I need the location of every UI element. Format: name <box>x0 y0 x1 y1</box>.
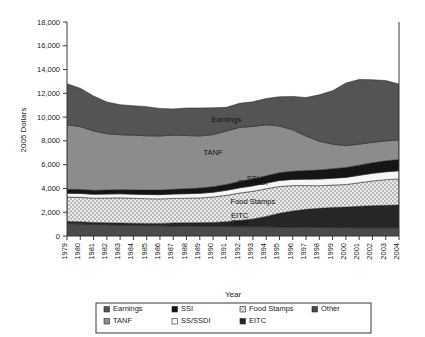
legend-label-earnings: Earnings <box>113 304 143 313</box>
x-tick-label: 1980 <box>73 243 82 260</box>
y-tick-label: 8,000 <box>41 136 60 145</box>
x-tick-label: 1997 <box>299 243 308 260</box>
x-tick-label: 1990 <box>206 243 215 260</box>
x-tick-label: 1995 <box>272 243 281 260</box>
legend-label-food-stamps: Food Stamps <box>249 304 294 313</box>
y-tick-label: 10,000 <box>37 113 60 122</box>
x-tick-label: 1996 <box>286 243 295 260</box>
x-tick-label: 1989 <box>193 243 202 260</box>
x-tick-label: 2004 <box>392 243 401 260</box>
y-tick-label: 4,000 <box>41 184 60 193</box>
x-tick-label: 1999 <box>326 243 335 260</box>
y-tick-label: 0 <box>56 232 60 241</box>
x-tick-label: 1992 <box>233 243 242 260</box>
x-tick-label: 1984 <box>126 243 135 260</box>
legend-label-ss-ssdi: SS/SSDI <box>181 316 211 325</box>
x-tick-label: 1998 <box>312 243 321 260</box>
x-axis-title: Year <box>225 290 242 299</box>
y-tick-label: 18,000 <box>37 18 60 27</box>
legend: EarningsSSIFood StampsOtherTANFSS/SSDIEI… <box>96 303 371 333</box>
inchart-label-earnings: Earnings <box>212 115 242 124</box>
x-tick-label: 1993 <box>246 243 255 260</box>
legend-swatch-earnings <box>104 307 110 313</box>
x-tick-label: 2001 <box>352 243 361 260</box>
legend-swatch-eitc <box>240 319 246 325</box>
x-tick-label: 1981 <box>87 243 96 260</box>
y-axis-title: 2005 Dollars <box>19 108 28 153</box>
legend-swatch-other <box>312 307 318 313</box>
y-tick-label: 2,000 <box>41 208 60 217</box>
x-tick-label: 2003 <box>379 243 388 260</box>
x-tick-label: 1979 <box>60 243 69 260</box>
y-tick-label: 16,000 <box>37 41 60 50</box>
y-tick-label: 14,000 <box>37 65 60 74</box>
legend-label-tanf: TANF <box>113 316 132 325</box>
x-tick-label: 2000 <box>339 243 348 260</box>
x-tick-label: 1983 <box>113 243 122 260</box>
legend-label-other: Other <box>321 304 340 313</box>
legend-label-ssi: SSI <box>181 304 193 313</box>
inchart-label-other: Other <box>230 218 249 227</box>
x-tick-label: 1986 <box>153 243 162 260</box>
x-tick-label: 1988 <box>180 243 189 260</box>
x-tick-label: 2002 <box>365 243 374 260</box>
x-tick-label: 1985 <box>140 243 149 260</box>
legend-label-eitc: EITC <box>249 316 267 325</box>
inchart-label-tanf: TANF <box>204 148 223 157</box>
inchart-label-food-stamps: Food Stamps <box>231 197 276 206</box>
legend-swatch-ssi <box>172 307 178 313</box>
x-tick-label: 1994 <box>259 243 268 260</box>
stacked-area-chart: 02,0004,0006,0008,00010,00012,00014,0001… <box>0 0 425 337</box>
x-tick-label: 1991 <box>219 243 228 260</box>
x-tick-label: 1982 <box>100 243 109 260</box>
legend-swatch-food-stamps <box>240 307 246 313</box>
y-tick-label: 6,000 <box>41 160 60 169</box>
inchart-label-ss-ssdi: SS/SSDI <box>238 178 268 187</box>
x-tick-label: 1987 <box>166 243 175 260</box>
legend-swatch-tanf <box>104 319 110 325</box>
legend-swatch-ss-ssdi <box>172 319 178 325</box>
y-tick-label: 12,000 <box>37 89 60 98</box>
